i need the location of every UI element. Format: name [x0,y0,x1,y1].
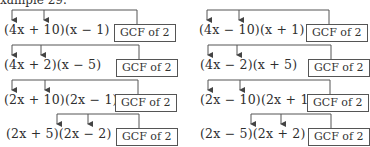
gcf-label-left-4: GCF of 2 [116,128,178,146]
expression-left-1: (4x + 10)(x − 1) [4,22,109,37]
expression-left-2: (4x + 2)(x − 5) [4,57,101,72]
expression-left-4: (2x + 5)(2x − 2) [6,126,111,141]
gcf-label-right-3: GCF of 2 [307,94,369,112]
expression-right-3: (2x − 10)(2x + 1) [200,92,314,107]
gcf-label-right-2: GCF of 2 [308,59,370,77]
gcf-label-left-2: GCF of 2 [116,59,178,77]
gcf-label-right-1: GCF of 2 [306,24,368,42]
gcf-label-left-1: GCF of 2 [114,24,176,42]
gcf-label-right-4: GCF of 2 [308,128,370,146]
expression-right-4: (2x − 5)(2x + 2) [200,126,305,141]
expression-right-2: (4x − 2)(x + 5) [200,57,297,72]
expression-right-1: (4x − 10)(x + 1) [199,22,304,37]
gcf-label-left-3: GCF of 2 [115,94,177,112]
expression-left-3: (2x + 10)(2x − 1) [4,92,118,107]
